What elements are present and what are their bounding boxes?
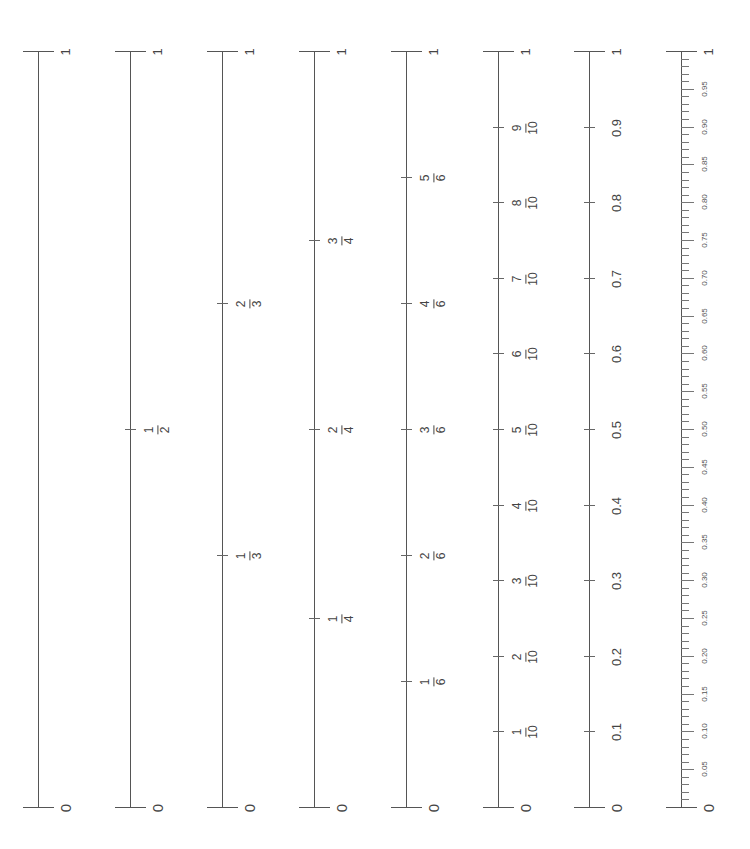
ruler-tenths-fraction-tick — [493, 505, 504, 506]
ruler-tenths-decimal-tick — [584, 202, 595, 203]
ruler-tenths-decimal-label-one: 1 — [610, 48, 623, 55]
ruler-hundredths-tick — [681, 210, 689, 211]
ruler-hundredths-tick-label: 0.35 — [701, 535, 709, 551]
ruler-hundredths-tick-label: 0.85 — [701, 157, 709, 173]
ruler-hundredths-tick — [681, 134, 689, 135]
ruler-tenths-decimal-tick-label: 0.1 — [610, 723, 623, 741]
ruler-hundredths-tick — [681, 731, 694, 732]
ruler-tenths-decimal-tick-label: 0.4 — [610, 497, 623, 515]
ruler-hundredths-tick — [681, 157, 689, 158]
ruler-hundredths-tick-label: 0.55 — [701, 383, 709, 399]
ruler-hundredths-tick-label: 0.50 — [701, 421, 709, 437]
ruler-hundredths-tick — [681, 686, 689, 687]
ruler-hundredths-tick — [681, 482, 689, 483]
numerator: 1 — [511, 728, 526, 737]
ruler-hundredths-tick — [681, 406, 689, 407]
numerator: 8 — [511, 199, 526, 208]
ruler-tenths-fraction-tick — [493, 278, 504, 279]
ruler-tenths-fraction-bottom-cap — [483, 807, 514, 808]
denominator: 10 — [526, 120, 540, 135]
ruler-halves-label-one: 1 — [151, 48, 164, 55]
ruler-tenths-decimal-tick-label: 0.5 — [610, 421, 623, 439]
ruler-hundredths-tick — [681, 142, 689, 143]
ruler-tenths-decimal-top-cap — [574, 51, 605, 52]
ruler-thirds-tick-label: 23 — [234, 300, 263, 309]
ruler-tenths-decimal-tick-label: 0.3 — [610, 572, 623, 590]
ruler-hundredths-tick-label: 0.95 — [701, 81, 709, 97]
ruler-sixths-tick — [401, 681, 412, 682]
ruler-hundredths-tick — [681, 399, 689, 400]
denominator: 4 — [342, 615, 356, 624]
ruler-hundredths-tick — [681, 323, 689, 324]
ruler-sixths-top-cap — [391, 51, 422, 52]
numerator: 1 — [419, 678, 434, 687]
denominator: 6 — [434, 174, 448, 183]
ruler-halves-top-cap — [115, 51, 146, 52]
ruler-thirds-tick — [217, 303, 228, 304]
denominator: 3 — [250, 552, 264, 561]
ruler-hundredths-tick — [681, 595, 689, 596]
ruler-hundredths-tick — [681, 187, 689, 188]
numerator: 1 — [235, 552, 250, 561]
ruler-hundredths-tick — [681, 520, 689, 521]
ruler-hundredths-tick — [681, 489, 689, 490]
ruler-hundredths-tick-label: 0.25 — [701, 610, 709, 626]
ruler-tenths-decimal-tick-label: 0.8 — [610, 194, 623, 212]
ruler-sixths-tick-label: 46 — [418, 300, 447, 309]
ruler-hundredths-tick — [681, 633, 689, 634]
numerator: 4 — [419, 300, 434, 309]
ruler-sixths-bottom-cap — [391, 807, 422, 808]
ruler-hundredths-tick — [681, 331, 689, 332]
denominator: 10 — [526, 422, 540, 437]
ruler-hundredths-tick — [681, 671, 689, 672]
ruler-hundredths-tick — [681, 421, 689, 422]
ruler-quarters-top-cap — [299, 51, 330, 52]
ruler-hundredths-tick — [681, 452, 689, 453]
ruler-thirds-label-zero: 0 — [242, 804, 257, 812]
ruler-hundredths-tick — [681, 66, 689, 67]
ruler-hundredths-tick — [681, 164, 694, 165]
ruler-hundredths-tick — [681, 353, 694, 354]
denominator: 10 — [526, 573, 540, 588]
ruler-hundredths-tick-label: 0.15 — [701, 686, 709, 702]
ruler-hundredths-tick — [681, 96, 689, 97]
ruler-hundredths-tick-label: 0.65 — [701, 308, 709, 324]
ruler-hundredths-tick — [681, 626, 689, 627]
ruler-hundredths-tick — [681, 111, 689, 112]
fraction: 410 — [511, 498, 539, 513]
ruler-hundredths-tick — [681, 467, 694, 468]
ruler-tenths-decimal-tick-label: 0.2 — [610, 648, 623, 666]
ruler-hundredths-tick — [681, 437, 689, 438]
ruler-hundredths-tick — [681, 580, 694, 581]
fraction: 16 — [419, 678, 447, 687]
numerator: 4 — [511, 502, 526, 511]
ruler-tenths-decimal-tick — [584, 278, 595, 279]
ruler-hundredths-tick-label: 0.70 — [701, 270, 709, 286]
fraction: 24 — [327, 426, 355, 435]
ruler-tenths-decimal-tick — [584, 731, 595, 732]
ruler-hundredths-tick — [681, 527, 689, 528]
denominator: 10 — [526, 498, 540, 513]
ruler-hundredths-tick — [681, 414, 689, 415]
ruler-hundredths-tick-label: 0.75 — [701, 232, 709, 248]
ruler-sixths-tick — [401, 177, 412, 178]
numerator: 6 — [511, 350, 526, 359]
ruler-hundredths-tick-label: 0.10 — [701, 724, 709, 740]
fraction: 12 — [143, 426, 171, 435]
ruler-tenths-fraction-tick — [493, 127, 504, 128]
ruler-tenths-fraction-tick-label: 310 — [510, 573, 539, 588]
ruler-hundredths-bottom-cap — [666, 807, 697, 808]
fraction: 710 — [511, 271, 539, 286]
ruler-hundredths-tick-label: 0.05 — [701, 761, 709, 777]
ruler-tenths-decimal-tick-label: 0.7 — [610, 270, 623, 288]
ruler-hundredths-tick — [681, 263, 689, 264]
ruler-hundredths-tick — [681, 81, 689, 82]
numerator: 3 — [327, 237, 342, 246]
numerator: 1 — [143, 426, 158, 435]
ruler-hundredths-tick — [681, 255, 689, 256]
ruler-quarters-tick — [309, 618, 320, 619]
ruler-tenths-fraction-tick — [493, 580, 504, 581]
fraction: 56 — [419, 174, 447, 183]
ruler-hundredths-tick — [681, 747, 689, 748]
ruler-hundredths-tick — [681, 754, 689, 755]
